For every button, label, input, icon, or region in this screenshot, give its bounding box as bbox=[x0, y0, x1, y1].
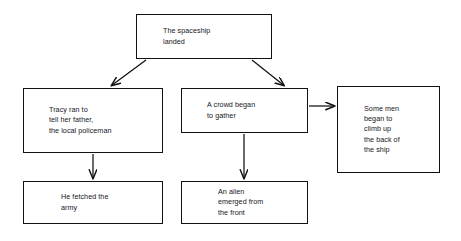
arrow-spaceship-to-crowd bbox=[252, 60, 284, 86]
node-crowd[interactable]: A crowd began to gather bbox=[181, 88, 308, 133]
arrow-spaceship-to-tracy bbox=[112, 60, 147, 86]
node-alien-label: An alien emerged from the front bbox=[182, 187, 267, 218]
node-tracy[interactable]: Tracy ran to tell her father, the local … bbox=[23, 88, 163, 153]
node-somemen[interactable]: Some men began to climb up the back of t… bbox=[337, 86, 440, 173]
node-alien[interactable]: An alien emerged from the front bbox=[181, 181, 308, 224]
node-spaceship[interactable]: The spaceship landed bbox=[136, 14, 272, 59]
node-crowd-label: A crowd began to gather bbox=[182, 100, 259, 120]
node-army-label: He fetched the army bbox=[24, 192, 112, 212]
node-spaceship-label: The spaceship landed bbox=[137, 26, 214, 46]
node-somemen-label: Some men began to climb up the back of t… bbox=[338, 104, 404, 155]
node-army[interactable]: He fetched the army bbox=[23, 181, 163, 224]
flowchart-canvas: The spaceship landed Tracy ran to tell h… bbox=[0, 0, 461, 241]
node-tracy-label: Tracy ran to tell her father, the local … bbox=[24, 105, 115, 136]
